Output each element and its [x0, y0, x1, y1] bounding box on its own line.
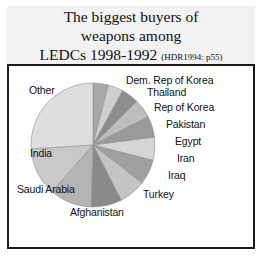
title-line-3: LEDCs 1998-1992 (HDR1994: p55)	[40, 45, 223, 64]
pie-label-iraq: Iraq	[168, 169, 186, 181]
pie-label-egypt: Egypt	[175, 135, 201, 147]
pie-label-thailand: Thailand	[147, 86, 186, 98]
title-line-2: weapons among	[81, 26, 181, 45]
pie-label-pakistan: Pakistan	[166, 118, 205, 130]
pie-label-turkey: Turkey	[143, 188, 174, 200]
pie-plot-area: Other Dem. Rep of Korea Thailand Rep of …	[9, 68, 253, 247]
title-line-1: The biggest buyers of	[64, 7, 199, 26]
pie-label-dem-rep-of-korea: Dem. Rep of Korea	[126, 74, 213, 86]
pie-label-saudi-arabia: Saudi Arabia	[17, 183, 75, 195]
pie-label-india: India	[30, 147, 52, 159]
pie-chart-figure: The biggest buyers of weapons among LEDC…	[0, 0, 264, 260]
title-source-citation: (HDR1994: p55)	[161, 52, 222, 63]
title-main-text: LEDCs 1998-1992	[40, 45, 158, 64]
chart-title-block: The biggest buyers of weapons among LEDC…	[7, 6, 255, 66]
pie-label-iran: Iran	[177, 152, 195, 164]
pie-label-rep-of-korea: Rep of Korea	[154, 101, 214, 113]
pie-label-other: Other	[29, 84, 55, 96]
pie-label-afghanistan: Afghanistan	[70, 206, 124, 218]
